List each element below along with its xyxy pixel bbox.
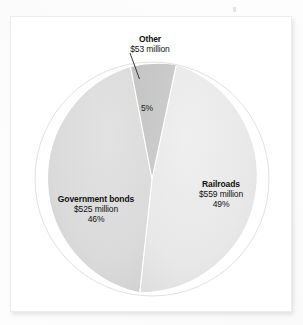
pie-chart-svg <box>11 17 291 311</box>
pie-slice-government-bonds[interactable] <box>47 67 152 293</box>
pie-chart: Other $53 million 5% Railroads $559 mill… <box>11 17 291 311</box>
slice-label-government-bonds-percent: 46% <box>40 215 152 225</box>
slice-label-other: Other $53 million <box>108 35 192 55</box>
slice-label-railroads: Railroads $559 million 49% <box>178 180 264 210</box>
page-background: Other $53 million 5% Railroads $559 mill… <box>0 0 303 325</box>
slice-label-railroads-percent: 49% <box>178 200 264 210</box>
slice-label-government-bonds: Government bonds $525 million 46% <box>40 195 152 225</box>
slice-label-other-percent: 5% <box>129 103 165 113</box>
scan-artifact-speck <box>233 7 236 12</box>
slice-label-other-value: $53 million <box>108 45 192 55</box>
figure-card: Other $53 million 5% Railroads $559 mill… <box>10 16 292 312</box>
